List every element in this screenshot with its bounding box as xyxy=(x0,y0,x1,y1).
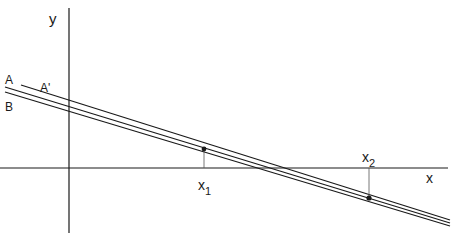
line-b-label: B xyxy=(5,100,13,114)
x2-label: x2 xyxy=(362,149,375,169)
y-axis-label: y xyxy=(49,10,57,27)
x2-label-base: x xyxy=(362,149,369,165)
line-a-prime-label: A' xyxy=(40,81,50,95)
line-a xyxy=(5,87,450,223)
point-x2 xyxy=(366,195,371,200)
x-axis-label: x xyxy=(426,170,433,186)
line-a-prime xyxy=(21,85,450,220)
x1-label-base: x xyxy=(198,177,205,193)
regression-lines-diagram: y x A B A' x1 x2 xyxy=(0,0,455,233)
line-a-label: A xyxy=(5,73,13,87)
point-x1 xyxy=(202,147,207,152)
x1-label: x1 xyxy=(198,177,211,197)
x1-label-subscript: 1 xyxy=(205,185,211,197)
line-b xyxy=(5,92,450,226)
x2-label-subscript: 2 xyxy=(369,157,375,169)
